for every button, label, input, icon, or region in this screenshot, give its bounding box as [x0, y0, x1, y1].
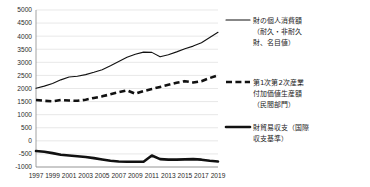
y-axis-tick-label: 500	[21, 124, 32, 131]
y-axis-tick-label: 5000	[17, 6, 32, 13]
gridlines	[36, 10, 218, 167]
x-axis-tick-labels: 1997199920012003200520072009201120132015…	[29, 172, 226, 179]
x-axis-tick-label: 2009	[128, 172, 143, 179]
legend-label-1: 財の個人消費額	[253, 16, 302, 25]
x-axis-tick-label: 2003	[78, 172, 93, 179]
x-axis-tick-label: 2013	[161, 172, 176, 179]
y-axis-tick-label: 1000	[17, 111, 32, 118]
x-axis-tick-label: 1999	[45, 172, 60, 179]
y-axis-tick-label: 4500	[17, 19, 32, 26]
chart-canvas: 5000450040003500300025002000150010005000…	[0, 0, 370, 187]
y-axis-tick-label: -1000	[15, 163, 32, 170]
y-axis-tick-label: 3000	[17, 59, 32, 66]
y-axis-tick-label: 2000	[17, 85, 32, 92]
y-axis-tick-label: 1500	[17, 98, 32, 105]
legend-label-2: 付加価値生産額	[253, 89, 302, 98]
x-axis-tick-label: 2017	[194, 172, 209, 179]
x-axis-tick-label: 2007	[111, 172, 126, 179]
data-series-group	[36, 32, 218, 162]
y-axis-tick-label: 2500	[17, 72, 32, 79]
y-axis-tick-label: -500	[19, 150, 33, 157]
y-axis-tick-label: 3500	[17, 46, 32, 53]
legend: 財の個人消費額（耐久・非耐久財、名目値）第1次第2次産業付加価値生産額（民間部門…	[226, 16, 309, 143]
x-axis-tick-label: 2011	[145, 172, 160, 179]
x-axis-tick-label: 2005	[95, 172, 110, 179]
y-axis-tick-label: 0	[28, 137, 32, 144]
series-line-1	[36, 32, 218, 88]
y-axis-tick-labels: 5000450040003500300025002000150010005000…	[15, 6, 32, 170]
y-axis-tick-label: 4000	[17, 33, 32, 40]
legend-label-1: 財、名目値）	[253, 38, 295, 47]
x-axis-tick-label: 2001	[62, 172, 77, 179]
x-axis-tick-label: 2019	[211, 172, 226, 179]
legend-label-2: （民間部門）	[253, 100, 295, 109]
legend-label-3: 収支基準）	[253, 134, 288, 143]
x-axis-tick-label: 2015	[178, 172, 193, 179]
legend-label-1: （耐久・非耐久	[253, 27, 302, 36]
legend-label-3: 財貿易収支（国際	[253, 123, 309, 132]
x-axis-tick-label: 1997	[29, 172, 44, 179]
line-chart: 5000450040003500300025002000150010005000…	[0, 0, 370, 187]
legend-label-2: 第1次第2次産業	[253, 78, 304, 87]
series-line-3	[36, 151, 218, 162]
